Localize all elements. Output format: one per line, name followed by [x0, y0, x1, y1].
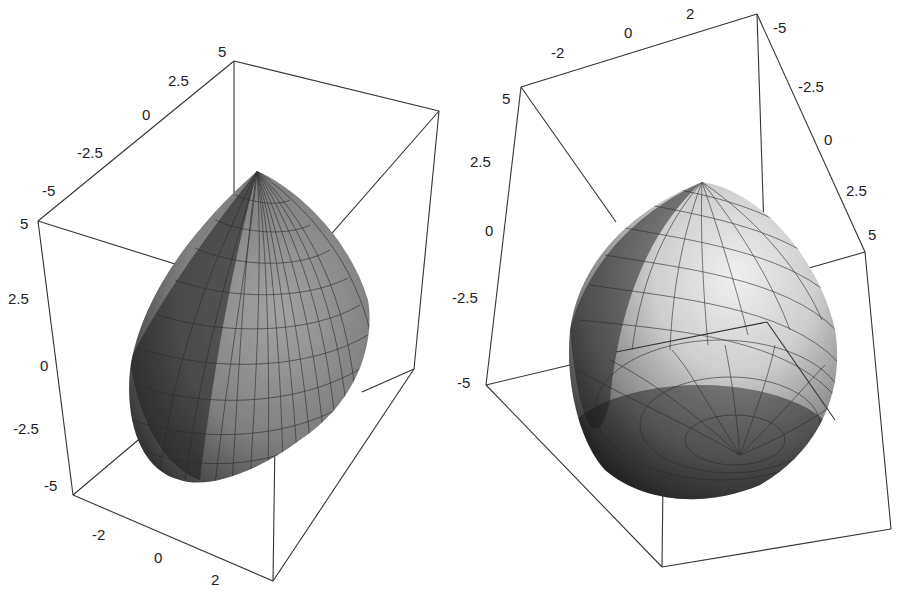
left-surface: [129, 171, 372, 485]
tick-label: 0: [154, 549, 162, 566]
tick-label: 2.5: [846, 182, 867, 199]
tick-label: 2: [686, 5, 694, 22]
right-surface: [560, 182, 845, 515]
tick-label: 0: [40, 357, 48, 374]
tick-label: 0: [485, 222, 493, 239]
right-axis-top: -2 0 2: [551, 5, 694, 61]
tick-label: -2.5: [77, 144, 103, 161]
right-panel: -2 0 2 5 2.5 0 -2.5 -5 -5 -2.5 0 2.5 5: [452, 5, 891, 567]
left-axis-diagonal: -5 -2.5 0 2.5 5: [42, 43, 226, 199]
left-axis-vertical: 5 2.5 0 -2.5 -5: [8, 215, 57, 494]
tick-label: -5: [42, 182, 55, 199]
tick-label: -2: [92, 526, 105, 543]
tick-label: 2.5: [168, 72, 189, 89]
tick-label: 5: [20, 215, 28, 232]
tick-label: 5: [502, 90, 510, 107]
figure-canvas: -5 -2.5 0 2.5 5 5 2.5 0 -2.5 -5 -2 0 2: [0, 0, 901, 594]
tick-label: -2.5: [13, 420, 39, 437]
tick-label: -2.5: [452, 289, 478, 306]
tick-label: 5: [868, 226, 876, 243]
tick-label: -5: [457, 374, 470, 391]
right-axis-vertical: 5 2.5 0 -2.5 -5: [452, 90, 510, 391]
tick-label: 2.5: [8, 290, 29, 307]
tick-label: -5: [44, 477, 57, 494]
left-axis-bottom: -2 0 2: [92, 526, 219, 588]
tick-label: 2.5: [470, 153, 491, 170]
right-axis-diagonal: -5 -2.5 0 2.5 5: [773, 19, 876, 243]
tick-label: -2: [551, 44, 564, 61]
tick-label: -2.5: [798, 78, 824, 95]
tick-label: -5: [773, 19, 786, 36]
tick-label: 0: [624, 24, 632, 41]
tick-label: 2: [211, 571, 219, 588]
tick-label: 5: [218, 43, 226, 60]
tick-label: 0: [142, 106, 150, 123]
left-panel: -5 -2.5 0 2.5 5 5 2.5 0 -2.5 -5 -2 0 2: [8, 43, 439, 588]
tick-label: 0: [824, 131, 832, 148]
